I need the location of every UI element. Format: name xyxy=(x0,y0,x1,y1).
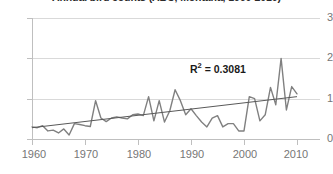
plot-area: 3 2 1 0 1960 1970 1980 1990 2000 2010 R2… xyxy=(0,0,333,174)
r-squared-symbol: R xyxy=(190,63,198,75)
r-squared-annotation: R2 = 0.3081 xyxy=(190,61,246,75)
r-squared-value: = 0.3081 xyxy=(202,63,246,75)
series-layer xyxy=(0,0,333,174)
chart-container: Annual bird counts (ABC, Montana, 1960-2… xyxy=(0,0,333,174)
